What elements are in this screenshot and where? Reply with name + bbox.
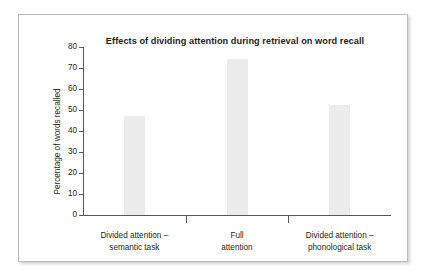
y-axis-tick: 60 (83, 89, 84, 90)
category-label-line: Divided attention – (288, 230, 391, 242)
y-axis-tick-mark (79, 194, 83, 195)
bar (329, 105, 350, 215)
y-axis-tick-label: 40 (57, 126, 77, 135)
y-axis-tick: 70 (83, 68, 84, 69)
category-label-line: semantic task (83, 242, 186, 254)
category-divider-tick (186, 216, 187, 223)
y-axis-tick: 30 (83, 152, 84, 153)
y-axis-tick-mark (79, 173, 83, 174)
y-axis-tick-label: 30 (57, 147, 77, 156)
chart-title: Effects of dividing attention during ret… (79, 36, 391, 47)
plot-area: 01020304050607080 Divided attention –sem… (83, 47, 391, 215)
y-axis-tick-label: 80 (57, 42, 77, 51)
y-axis-tick-label: 50 (57, 105, 77, 114)
category-label: Divided attention –semantic task (83, 230, 186, 253)
y-axis-tick-mark (79, 152, 83, 153)
y-axis-tick: 10 (83, 194, 84, 195)
bar (124, 116, 145, 215)
bar (227, 59, 248, 215)
y-axis-tick: 50 (83, 110, 84, 111)
y-axis-tick-label: 20 (57, 168, 77, 177)
y-axis-tick-label: 60 (57, 84, 77, 93)
x-axis-line (83, 215, 391, 216)
y-axis-tick-label: 10 (57, 189, 77, 198)
category-label-line: attention (186, 242, 289, 254)
category-label-line: Divided attention – (83, 230, 186, 242)
y-axis-tick-mark (79, 68, 83, 69)
category-label: Fullattention (186, 230, 289, 253)
y-axis-tick: 20 (83, 173, 84, 174)
y-axis-tick: 40 (83, 131, 84, 132)
category-label: Divided attention –phonological task (288, 230, 391, 253)
figure-frame: Effects of dividing attention during ret… (18, 14, 408, 262)
y-axis-tick-mark (79, 110, 83, 111)
y-axis-tick: 80 (83, 47, 84, 48)
y-axis-tick-label: 0 (57, 210, 77, 219)
y-axis-tick-label: 70 (57, 63, 77, 72)
category-divider-tick (288, 216, 289, 223)
y-axis-tick-mark (79, 215, 83, 216)
y-axis-tick-mark (79, 89, 83, 90)
y-axis-tick-mark (79, 131, 83, 132)
y-axis-tick-mark (79, 47, 83, 48)
figure-root: Effects of dividing attention during ret… (0, 0, 424, 278)
category-label-line: Full (186, 230, 289, 242)
y-axis-tick: 0 (83, 215, 84, 216)
category-label-line: phonological task (288, 242, 391, 254)
